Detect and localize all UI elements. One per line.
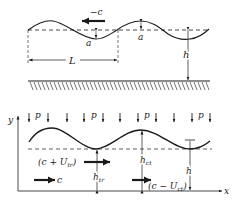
x-axis-label: x bbox=[224, 186, 229, 196]
trough-depth-label: htr bbox=[93, 172, 105, 183]
trough-velocity-label: (c + Utr) bbox=[38, 157, 77, 168]
wave-speed-label: −c bbox=[90, 7, 103, 17]
pressure-label-1: p bbox=[35, 110, 41, 120]
sea-bed-hatching bbox=[30, 82, 209, 90]
crest-depth-label: hct bbox=[140, 155, 152, 166]
bottom-figure: y x p p p p (c + Utr) c bbox=[7, 110, 229, 196]
pressure-label-3: p bbox=[144, 110, 150, 120]
frame-speed-label: c bbox=[57, 175, 62, 185]
pressure-label-4: p bbox=[198, 110, 204, 120]
pressure-label-2: p bbox=[91, 110, 97, 120]
amplitude-label-crest: a bbox=[138, 32, 143, 42]
amplitude-label-trough: a bbox=[86, 38, 91, 48]
pressure-arrows bbox=[29, 113, 210, 122]
crest-velocity-label: (c − Uct) bbox=[148, 181, 187, 192]
top-figure: −c a a L h bbox=[28, 7, 210, 90]
wavelength-label: L bbox=[68, 55, 76, 66]
surface-wave bbox=[28, 21, 209, 40]
y-axis-label: y bbox=[7, 115, 14, 125]
surface-wave-bottom bbox=[29, 128, 210, 149]
mean-depth-label: h bbox=[186, 166, 192, 176]
shallow-water-wave-diagram: −c a a L h y x bbox=[0, 0, 238, 200]
depth-label: h bbox=[183, 49, 189, 60]
